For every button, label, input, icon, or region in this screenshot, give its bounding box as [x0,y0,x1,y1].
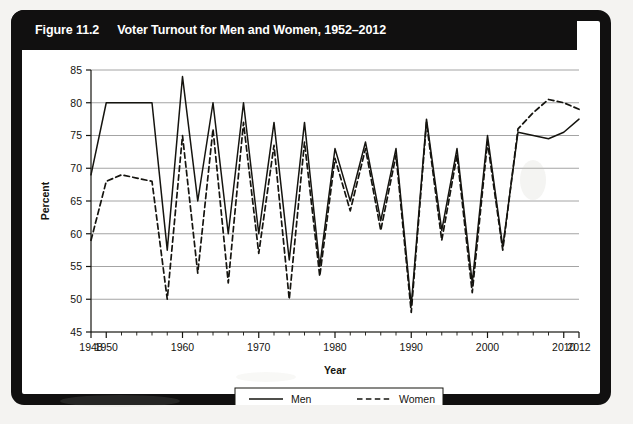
gridlines [91,70,579,332]
y-tick-label: 65 [70,195,82,207]
legend-label-women: Women [399,393,435,405]
y-tick-label: 75 [70,129,82,141]
x-tick-label: 2012 [567,341,591,353]
x-axis-title: Year [324,364,346,376]
y-tick-label: 70 [70,162,82,174]
y-tick-label: 45 [70,326,82,338]
series-line-women [91,99,579,312]
data-series [91,77,579,313]
x-axis: 194819501960197019801990200020102012 [79,332,591,353]
chart-legend: MenWomen [235,388,443,405]
x-tick-label: 1990 [400,341,424,353]
y-axis: 455055606570758085 [70,64,91,338]
x-tick-label: 1970 [247,341,271,353]
legend-label-men: Men [291,393,312,405]
y-tick-label: 55 [70,260,82,272]
x-tick-label: 1960 [171,341,195,353]
y-tick-label: 80 [70,97,82,109]
y-tick-label: 50 [70,293,82,305]
x-tick-label: 1950 [95,341,119,353]
y-tick-label: 60 [70,228,82,240]
figure-number: Figure 11.2 [35,23,99,37]
line-chart: 455055606570758085 194819501960197019801… [11,50,611,405]
x-tick-label: 2000 [476,341,500,353]
x-tick-label: 1980 [323,341,347,353]
figure-page: Figure 11.2 Voter Turnout for Men and Wo… [0,0,633,424]
chart-area: 455055606570758085 194819501960197019801… [11,50,611,405]
figure-title: Voter Turnout for Men and Women, 1952–20… [117,23,386,37]
y-axis-title: Percent [39,181,51,220]
y-tick-label: 85 [70,64,82,76]
figure-title-bar: Figure 11.2 Voter Turnout for Men and Wo… [11,10,577,50]
